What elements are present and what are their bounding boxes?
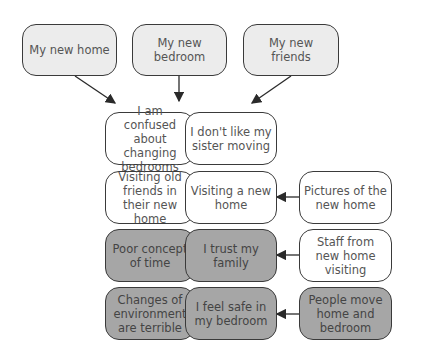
node-my-new-home: My new home bbox=[22, 24, 117, 76]
node-label: My new home bbox=[29, 43, 109, 57]
node-label: I don't like my sister moving bbox=[190, 125, 272, 153]
node-sister-moving: I don't like my sister moving bbox=[185, 112, 277, 165]
node-label: Visiting old friends in their new home bbox=[110, 170, 190, 226]
arrow-friends-to-grid bbox=[252, 76, 291, 103]
node-label: I am confused about changing bedrooms bbox=[110, 104, 190, 174]
node-confused-bedrooms: I am confused about changing bedrooms bbox=[105, 112, 195, 165]
arrow-home-to-grid bbox=[75, 76, 115, 103]
node-trust-family: I trust my family bbox=[185, 229, 277, 282]
node-poor-concept-time: Poor concept of time bbox=[105, 229, 195, 282]
node-label: Visiting a new home bbox=[190, 184, 272, 212]
node-visiting-old-friends: Visiting old friends in their new home bbox=[105, 171, 195, 224]
node-label: People move home and bedroom bbox=[304, 293, 387, 335]
node-my-new-bedroom: My new bedroom bbox=[132, 24, 227, 76]
node-label: Changes of environment are terrible bbox=[110, 293, 190, 335]
node-pictures-new-home: Pictures of the new home bbox=[299, 171, 392, 224]
node-my-new-friends: My new friends bbox=[243, 24, 339, 76]
node-label: Staff from new home visiting bbox=[304, 235, 387, 277]
node-visiting-new-home: Visiting a new home bbox=[185, 171, 277, 224]
node-label: My new bedroom bbox=[137, 36, 222, 64]
node-label: My new friends bbox=[248, 36, 334, 64]
node-label: I trust my family bbox=[190, 242, 272, 270]
node-label: Poor concept of time bbox=[110, 242, 190, 270]
node-label: I feel safe in my bedroom bbox=[190, 300, 272, 328]
node-changes-environment: Changes of environment are terrible bbox=[105, 287, 195, 340]
node-label: Pictures of the new home bbox=[304, 184, 387, 212]
node-people-move: People move home and bedroom bbox=[299, 287, 392, 340]
node-staff-visiting: Staff from new home visiting bbox=[299, 229, 392, 282]
node-feel-safe-bedroom: I feel safe in my bedroom bbox=[185, 287, 277, 340]
